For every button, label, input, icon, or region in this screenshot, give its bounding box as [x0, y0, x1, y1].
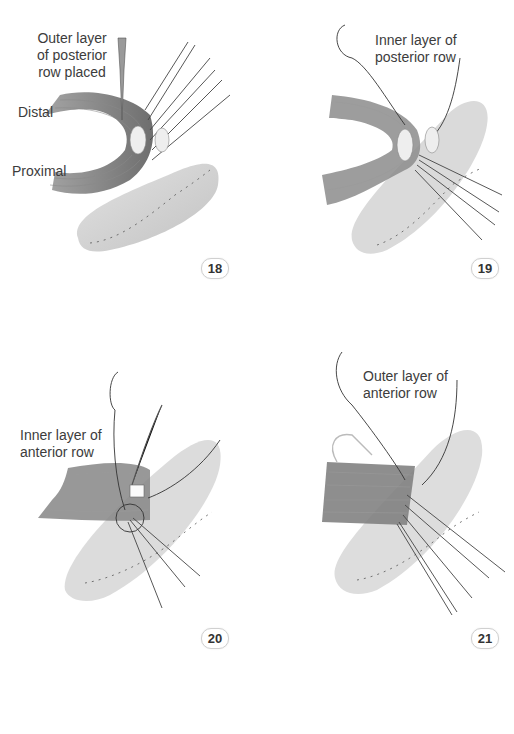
figure-title: Outer layer of anterior row	[363, 368, 448, 402]
figure-number: 20	[201, 628, 229, 649]
figure-20: Inner layer of anterior row 20	[0, 350, 257, 650]
figure-number: 19	[471, 258, 499, 279]
figure-title: Inner layer of posterior row	[375, 32, 457, 66]
figure-21: Outer layer of anterior row 21	[257, 350, 514, 650]
anastomosis-illustration-anterior-inner	[0, 350, 257, 650]
figure-18: Outer layer of posterior row placed Dist…	[0, 0, 257, 290]
figure-title: Outer layer of posterior row placed	[37, 30, 107, 81]
figure-title: Inner layer of anterior row	[20, 427, 102, 461]
figure-19: Inner layer of posterior row 19	[257, 0, 514, 290]
figure-number: 21	[471, 628, 499, 649]
figure-number: 18	[201, 258, 229, 279]
proximal-label: Proximal	[12, 163, 66, 180]
distal-label: Distal	[18, 104, 53, 121]
